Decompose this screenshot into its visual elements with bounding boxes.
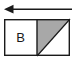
left-cell-label: B xyxy=(5,20,36,55)
diagram-figure: B xyxy=(0,0,77,66)
